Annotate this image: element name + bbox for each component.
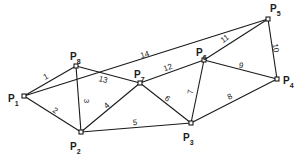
edge-label-5: 5 [132,118,138,127]
node-label-p2: P2 [70,141,81,155]
edge-8 [191,79,277,123]
edge-label-7: 7 [186,88,196,94]
edge-label-10: 10 [270,43,280,54]
edge-label-14: 14 [139,49,151,60]
node-p4 [275,77,279,81]
node-label-p5: P5 [270,3,281,17]
edge-label-4: 4 [102,101,112,111]
edge-12 [140,60,204,83]
edge-label-9: 9 [238,61,245,71]
edge-label-3: 3 [82,99,91,104]
edges-group [24,19,277,132]
edge-label-1: 1 [42,71,51,81]
node-label-p3: P3 [183,132,194,146]
network-diagram: 1234567891011121314 P1P2P3P4P5P6P7P8 [0,0,301,156]
node-label-p6: P6 [196,47,207,61]
node-label-p1: P1 [8,93,19,107]
node-label-p4: P4 [283,75,294,89]
edge-3 [76,66,81,132]
edge-11 [204,19,268,60]
node-label-p8: P8 [70,51,81,65]
edge-label-13: 13 [98,74,109,85]
edge-label-8: 8 [226,91,235,101]
node-p2 [79,130,83,134]
edge-1 [24,66,76,96]
node-p3 [189,121,193,125]
node-p1 [22,94,26,98]
edge-13 [76,66,140,83]
node-p5 [266,17,270,21]
